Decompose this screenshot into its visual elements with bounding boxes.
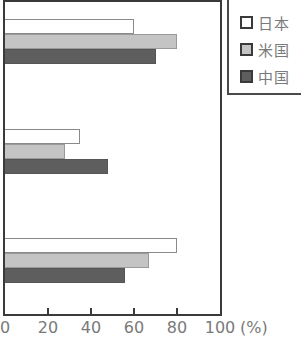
legend-label: 米国	[258, 39, 290, 60]
x-tick-label: 80	[167, 318, 187, 337]
x-tick-label: 60	[124, 318, 144, 337]
legend: 日本 米国 中国	[227, 0, 301, 95]
bar-usa-group-2	[5, 144, 65, 159]
legend-label: 日本	[258, 12, 290, 33]
x-tick	[90, 308, 92, 314]
x-tick	[47, 308, 49, 314]
legend-item-usa: 米国	[240, 40, 290, 58]
x-axis-unit: (%)	[240, 318, 268, 337]
plot-area	[3, 0, 222, 316]
bar-china-group-3	[5, 268, 125, 283]
legend-label: 中国	[258, 66, 290, 87]
legend-swatch-icon	[240, 43, 253, 56]
x-tick-label: 20	[38, 318, 58, 337]
bar-china-group-2	[5, 159, 108, 174]
x-tick	[176, 308, 178, 314]
x-tick	[133, 308, 135, 314]
legend-swatch-icon	[240, 70, 253, 83]
legend-item-china: 中国	[240, 67, 290, 85]
legend-item-japan: 日本	[240, 13, 290, 31]
x-tick-label: 40	[81, 318, 101, 337]
bar-japan-group-3	[5, 238, 177, 253]
bar-japan-group-1	[5, 19, 134, 34]
x-tick-label: 0	[0, 318, 10, 337]
legend-swatch-icon	[240, 16, 253, 29]
bar-japan-group-2	[5, 129, 80, 144]
bar-usa-group-3	[5, 253, 149, 268]
bar-usa-group-1	[5, 34, 177, 49]
x-tick-label: 100	[205, 318, 236, 337]
bar-china-group-1	[5, 49, 156, 64]
